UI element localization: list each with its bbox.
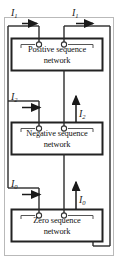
sequence-network-diagram: I1 I1 Positive sequence network I2 I2 Ne…	[0, 0, 118, 263]
negative-right-current-label: I2	[79, 104, 86, 121]
negative-left-current-label: I2	[11, 87, 18, 104]
positive-sequence-line1: Positive sequence	[11, 45, 103, 54]
positive-sequence-box	[12, 39, 103, 71]
top-right-current-label: I1	[72, 3, 79, 20]
zero-sequence-box	[12, 210, 103, 242]
zero-sequence-line2: network	[11, 227, 103, 236]
positive-sequence-line2: network	[11, 56, 103, 65]
negative-sequence-box	[12, 123, 103, 155]
negative-sequence-line2: network	[11, 140, 103, 149]
zero-sequence-line1: Zero sequence	[11, 216, 103, 225]
zero-right-current-label: I0	[79, 190, 86, 207]
top-left-current-label: I1	[11, 3, 18, 20]
negative-sequence-line1: Negative sequence	[11, 129, 103, 138]
zero-left-current-label: I0	[11, 174, 18, 191]
